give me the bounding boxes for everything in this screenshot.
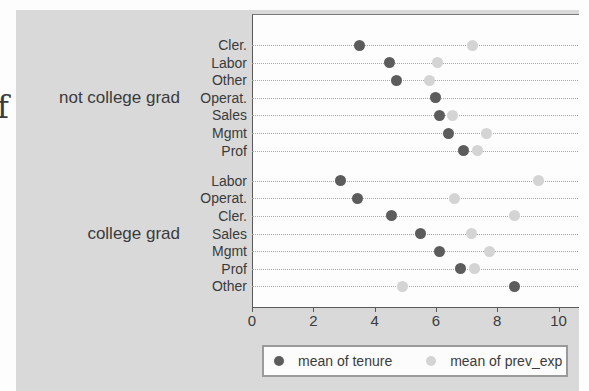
dot-prev-exp-college-grad-other	[397, 281, 408, 292]
dot-tenure-not-college-grad-cler	[354, 40, 365, 51]
category-label-college-grad-labor: Labor	[148, 172, 247, 190]
category-label-not-college-grad-sales: Sales	[148, 106, 247, 124]
gridline	[252, 80, 578, 81]
category-label-not-college-grad-labor: Labor	[148, 54, 247, 72]
dot-prev-exp-not-college-grad-labor	[432, 57, 443, 68]
category-label-college-grad-sales: Sales	[148, 225, 247, 243]
x-tick-label: 4	[362, 312, 388, 329]
gridline	[252, 216, 578, 217]
x-tick-label: 10	[546, 312, 572, 329]
plot-area	[252, 14, 579, 308]
dot-prev-exp-not-college-grad-cler	[467, 40, 478, 51]
dot-tenure-not-college-grad-sales	[434, 110, 445, 121]
x-tick-label: 0	[239, 312, 265, 329]
legend: mean of tenure mean of prev_exp	[262, 345, 568, 377]
category-label-college-grad-cler: Cler.	[148, 207, 247, 225]
category-label-not-college-grad-prof: Prof	[148, 142, 247, 160]
page: f not college grad college grad mean of …	[0, 0, 589, 391]
dot-prev-exp-college-grad-operat	[449, 193, 460, 204]
category-label-not-college-grad-mgmt: Mgmt	[148, 124, 247, 142]
legend-label-prev-exp: mean of prev_exp	[450, 353, 562, 369]
gridline	[252, 151, 578, 152]
category-label-not-college-grad-operat: Operat.	[148, 89, 247, 107]
dot-prev-exp-college-grad-prof	[469, 263, 480, 274]
category-label-not-college-grad-cler: Cler.	[148, 36, 247, 54]
x-tick-label: 2	[300, 312, 326, 329]
dot-tenure-not-college-grad-other	[391, 75, 402, 86]
gridline	[252, 269, 578, 270]
gridline	[252, 286, 578, 287]
dot-tenure-not-college-grad-mgmt	[443, 128, 454, 139]
x-tick-label: 8	[484, 312, 510, 329]
stray-page-text: f	[0, 88, 9, 126]
gridline	[252, 115, 578, 116]
dot-prev-exp-college-grad-mgmt	[484, 246, 495, 257]
prev-exp-marker-icon	[426, 356, 436, 366]
gridline	[252, 98, 578, 99]
gridline	[252, 181, 578, 182]
gridline	[252, 63, 578, 64]
dot-tenure-college-grad-other	[509, 281, 520, 292]
dot-prev-exp-not-college-grad-other	[424, 75, 435, 86]
gridline	[252, 133, 578, 134]
tenure-marker-icon	[274, 356, 284, 366]
category-label-college-grad-mgmt: Mgmt	[148, 242, 247, 260]
legend-label-tenure: mean of tenure	[298, 353, 392, 369]
dot-prev-exp-college-grad-sales	[466, 228, 477, 239]
dot-prev-exp-not-college-grad-mgmt	[481, 128, 492, 139]
gridline	[252, 45, 578, 46]
gridline	[252, 198, 578, 199]
dot-prev-exp-college-grad-cler	[509, 210, 520, 221]
category-label-not-college-grad-other: Other	[148, 71, 247, 89]
x-tick-label: 6	[423, 312, 449, 329]
gridline	[252, 251, 578, 252]
category-label-college-grad-other: Other	[148, 277, 247, 295]
dot-tenure-college-grad-operat	[352, 193, 363, 204]
dot-tenure-college-grad-mgmt	[434, 246, 445, 257]
category-label-college-grad-operat: Operat.	[148, 189, 247, 207]
legend-entry-prev-exp: mean of prev_exp	[426, 353, 562, 369]
legend-entry-tenure: mean of tenure	[274, 353, 392, 369]
dot-prev-exp-not-college-grad-prof	[472, 145, 483, 156]
category-label-college-grad-prof: Prof	[148, 260, 247, 278]
